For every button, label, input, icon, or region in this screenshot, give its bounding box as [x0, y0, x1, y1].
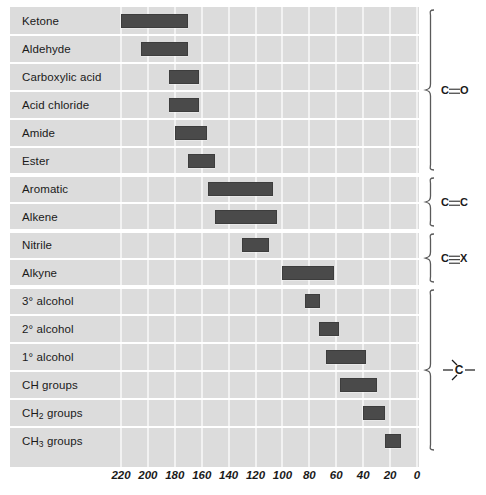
chart-row-ch-groups: CH groups	[10, 371, 419, 399]
row-label-suffix: groups	[44, 407, 83, 419]
row-label-ch3-groups: CH3 groups	[22, 427, 83, 455]
bracket-atom-right: C	[460, 196, 468, 208]
bracket-triple-cx: CX	[423, 233, 486, 283]
bar-aromatic	[208, 182, 273, 196]
x-tick-label-40: 40	[357, 469, 370, 481]
x-tick-label-140: 140	[219, 469, 238, 481]
curly-brace-icon	[423, 233, 437, 283]
bar-ester	[188, 154, 215, 168]
curly-brace-icon	[423, 177, 437, 227]
row-label-subscript: 2	[39, 411, 44, 421]
row-label-acid-chloride: Acid chloride	[22, 91, 89, 119]
chart-row-aromatic: Aromatic	[10, 175, 419, 203]
bar-ketone	[121, 14, 188, 28]
bar-amide	[175, 126, 207, 140]
curly-brace-icon	[423, 9, 437, 171]
row-label-ketone: Ketone	[22, 7, 59, 35]
bracket-label-alkene-cc: CC	[441, 196, 468, 209]
plot-area: KetoneAldehydeCarboxylic acidAcid chlori…	[10, 7, 419, 467]
bracket-carbonyl: CO	[423, 9, 486, 171]
row-label-secondary-alcohol: 2° alcohol	[22, 315, 74, 343]
row-label-alkyne: Alkyne	[22, 259, 57, 287]
bracket-alkene-cc: CC	[423, 177, 486, 227]
row-label-aromatic: Aromatic	[22, 175, 68, 203]
double-bond-icon	[449, 85, 460, 96]
row-label-aldehyde: Aldehyde	[22, 35, 71, 63]
chart-row-acid-chloride: Acid chloride	[10, 91, 419, 119]
row-label-alkene: Alkene	[22, 203, 58, 231]
bar-nitrile	[242, 238, 269, 252]
row-label-suffix: groups	[44, 435, 83, 447]
row-label-text: CH	[22, 435, 39, 447]
chart-row-ester: Ester	[10, 147, 419, 175]
bar-ch3-groups	[385, 434, 401, 448]
bracket-atom-right: O	[460, 84, 469, 96]
chart-row-alkene: Alkene	[10, 203, 419, 231]
double-bond-icon	[449, 197, 460, 208]
row-label-primary-alcohol: 1° alcohol	[22, 343, 74, 371]
bar-ch-groups	[340, 378, 376, 392]
chart-row-carboxylic-acid: Carboxylic acid	[10, 63, 419, 91]
row-label-nitrile: Nitrile	[22, 231, 52, 259]
svg-text:C: C	[455, 363, 464, 377]
bracket-atom-right: X	[460, 252, 467, 264]
x-tick-label-60: 60	[330, 469, 343, 481]
chart-row-alkyne: Alkyne	[10, 259, 419, 287]
chart-row-aldehyde: Aldehyde	[10, 35, 419, 63]
chart-row-ch2-groups: CH2 groups	[10, 399, 419, 427]
chart-row-ketone: Ketone	[10, 7, 419, 35]
row-label-tertiary-alcohol: 3° alcohol	[22, 287, 74, 315]
bar-alkyne	[282, 266, 333, 280]
x-tick-label-160: 160	[192, 469, 211, 481]
x-tick-label-0: 0	[414, 469, 420, 481]
row-label-ch2-groups: CH2 groups	[22, 399, 83, 427]
bracket-sp3-carbon: C	[423, 289, 486, 451]
x-tick-label-200: 200	[138, 469, 157, 481]
bar-primary-alcohol	[326, 350, 366, 364]
chart-row-secondary-alcohol: 2° alcohol	[10, 315, 419, 343]
bracket-label-triple-cx: CX	[441, 252, 467, 265]
bar-secondary-alcohol	[319, 322, 339, 336]
bracket-label-carbonyl: CO	[441, 84, 469, 97]
x-tick-label-80: 80	[303, 469, 316, 481]
ir-absorption-chart: KetoneAldehydeCarboxylic acidAcid chlori…	[0, 0, 486, 495]
bracket-atom-left: C	[441, 252, 449, 264]
chart-row-ch3-groups: CH3 groups	[10, 427, 419, 455]
chart-row-amide: Amide	[10, 119, 419, 147]
row-label-ester: Ester	[22, 147, 49, 175]
x-tick-label-220: 220	[111, 469, 130, 481]
curly-brace-icon	[423, 289, 437, 451]
sp3-carbon-icon: C	[439, 354, 479, 386]
bracket-atom-left: C	[441, 84, 449, 96]
x-tick-label-180: 180	[165, 469, 184, 481]
row-label-amide: Amide	[22, 119, 55, 147]
row-label-subscript: 3	[39, 439, 44, 449]
row-label-text: CH	[22, 407, 39, 419]
x-tick-label-20: 20	[384, 469, 397, 481]
x-tick-label-120: 120	[246, 469, 265, 481]
bar-carboxylic-acid	[169, 70, 199, 84]
bar-acid-chloride	[169, 98, 199, 112]
chart-row-tertiary-alcohol: 3° alcohol	[10, 287, 419, 315]
chart-row-nitrile: Nitrile	[10, 231, 419, 259]
bar-tertiary-alcohol	[305, 294, 320, 308]
triple-bond-icon	[449, 253, 460, 264]
x-axis: 220200180160140120100806040200	[10, 469, 419, 491]
bar-aldehyde	[141, 42, 188, 56]
row-label-carboxylic-acid: Carboxylic acid	[22, 63, 101, 91]
bar-alkene	[215, 210, 277, 224]
bar-ch2-groups	[363, 406, 385, 420]
row-label-ch-groups: CH groups	[22, 371, 78, 399]
bracket-atom-left: C	[441, 196, 449, 208]
x-tick-label-100: 100	[273, 469, 292, 481]
chart-row-primary-alcohol: 1° alcohol	[10, 343, 419, 371]
